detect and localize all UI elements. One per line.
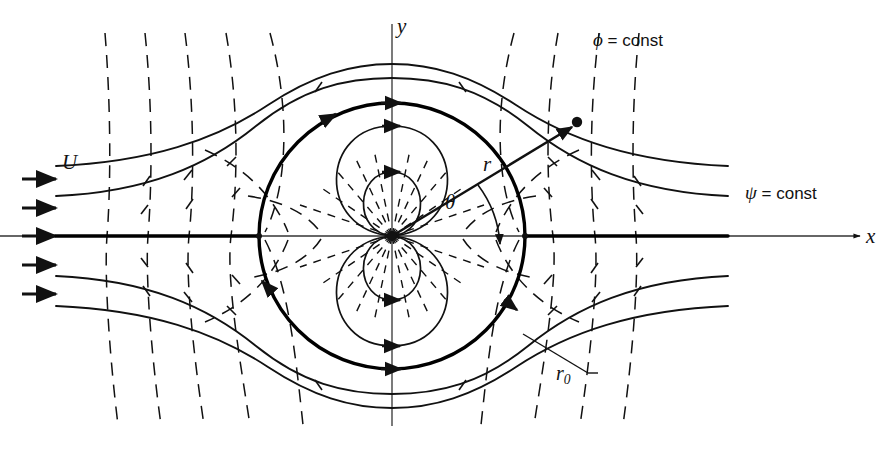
angle-arc <box>478 185 500 244</box>
radius-vector <box>392 127 572 236</box>
doublet-origin <box>387 231 397 241</box>
stagnation-point-rear <box>522 233 528 239</box>
psi-equals-const: = const <box>762 184 817 203</box>
legend-psi-const: ψ = const <box>745 182 817 204</box>
psi-symbol: ψ <box>745 182 757 203</box>
equipotential-line <box>185 33 204 425</box>
equipotential-line <box>145 33 161 425</box>
legend-phi-const: ϕ = const <box>593 29 663 51</box>
axis-group <box>0 24 860 426</box>
flow-diagram-canvas <box>0 0 891 451</box>
cylinder-radius-label: r0 <box>556 362 571 388</box>
phi-equals-const: = const <box>608 31 663 50</box>
angle-label: θ <box>445 190 455 215</box>
potential-flow-figure: U y x r θ r0 ϕ = const ψ = const <box>0 0 891 451</box>
radius-vector-group <box>392 117 582 244</box>
x-axis-label: x <box>866 224 875 249</box>
equipotential-line <box>580 33 599 425</box>
free-stream-label: U <box>62 150 77 175</box>
equipotential-line <box>534 33 558 425</box>
phi-symbol: ϕ <box>593 29 603 50</box>
inflow-arrow-group <box>22 179 56 294</box>
r0-subscript: 0 <box>564 372 571 387</box>
y-axis-label: y <box>397 14 406 39</box>
equipotential-line <box>105 33 118 425</box>
field-point-dot <box>572 117 582 127</box>
r0-base: r <box>556 362 564 384</box>
equipotential-line <box>226 33 250 425</box>
stagnation-point-front <box>256 233 262 239</box>
equipotential-line <box>623 33 639 425</box>
radius-vector-label: r <box>483 152 491 177</box>
